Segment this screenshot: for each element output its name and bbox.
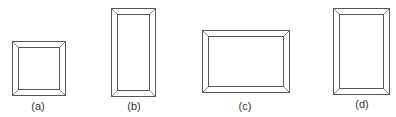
frame-d-label: (d) [355,98,368,110]
frame-c-outer [203,31,290,93]
frame-d: (d) [334,9,390,111]
frame-a-label: (a) [31,100,44,112]
frame-a-inner [19,48,60,90]
frame-b-label: (b) [127,100,140,112]
frame-c-inner [209,37,284,87]
frame-c-label: (c) [239,100,252,112]
frame-d-inner [340,15,384,89]
frame-b: (b) [112,9,156,113]
frame-c: (c) [203,31,290,113]
frame-d-outer [334,9,390,95]
frame-b-outer [112,9,156,97]
frames-diagram: (a) (b) (c) (d) [0,0,396,117]
frame-b-inner [118,15,150,91]
frame-a-outer [13,42,66,96]
frame-a: (a) [13,42,66,113]
